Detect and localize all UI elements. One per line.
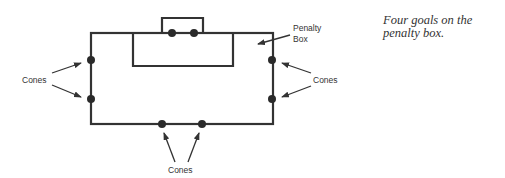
field-outline (91, 33, 273, 124)
cones-label-bottom: Cones (168, 165, 193, 175)
arrow-icon (52, 63, 81, 73)
cones-label-right: Cones (313, 75, 338, 85)
cone-icon (87, 56, 95, 64)
cones (87, 29, 276, 128)
cone-icon (190, 29, 198, 37)
cone-icon (198, 120, 206, 128)
penalty-box-label: Box (293, 34, 308, 44)
arrow-icon (282, 86, 311, 97)
penalty-box-label: Penalty (293, 23, 322, 33)
diagram-caption: Four goals on the penalty box. (383, 14, 503, 40)
cone-icon (168, 29, 176, 37)
arrow-icon (52, 85, 81, 97)
cone-icon (268, 95, 276, 103)
cone-icon (87, 95, 95, 103)
cone-icon (268, 56, 276, 64)
cone-icon (158, 120, 166, 128)
arrow-icon (164, 133, 175, 162)
penalty-box (133, 33, 233, 66)
arrow-icon (188, 133, 199, 162)
arrow-icon (282, 63, 311, 73)
cones-label-left: Cones (22, 75, 47, 85)
